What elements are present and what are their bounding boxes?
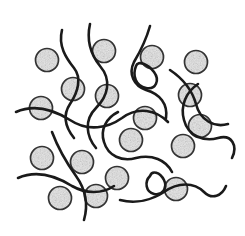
filler-particle	[36, 49, 59, 72]
filler-particle	[185, 51, 208, 74]
filler-particle	[49, 187, 72, 210]
filler-particle	[179, 84, 202, 107]
nanocomposite-diagram	[0, 0, 245, 236]
filler-particle	[106, 167, 129, 190]
filler-particle	[85, 185, 108, 208]
filler-particle	[172, 135, 195, 158]
filler-particle	[120, 129, 143, 152]
filler-particle	[31, 147, 54, 170]
figure-root: Stippled spherical filler particles disp…	[0, 0, 245, 236]
filler-particle	[71, 151, 94, 174]
